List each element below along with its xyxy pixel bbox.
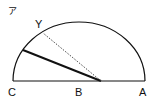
point-label-B: B: [75, 86, 82, 98]
solid-segment-to-arc: [23, 50, 101, 81]
figure-label: ア: [8, 6, 17, 16]
point-label-A: A: [139, 86, 147, 98]
point-label-Y: Y: [35, 18, 43, 30]
point-label-C: C: [8, 86, 16, 98]
semicircle-diagram: ア Y C B A: [0, 0, 159, 102]
dotted-segment-to-Y: [43, 33, 101, 81]
